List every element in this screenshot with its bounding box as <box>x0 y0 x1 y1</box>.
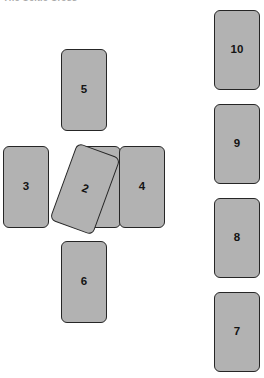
card-number-label: 7 <box>215 326 259 338</box>
card-number-label: 6 <box>62 276 106 288</box>
card-number-label: 10 <box>215 44 259 56</box>
card-position-7[interactable]: 7 <box>214 292 260 372</box>
card-number-label: 3 <box>4 181 48 193</box>
card-position-3[interactable]: 3 <box>3 146 49 228</box>
card-position-6[interactable]: 6 <box>61 241 107 323</box>
card-position-4[interactable]: 4 <box>119 146 165 228</box>
celtic-cross-spread-diagram: The Celtic Cross 1 2 3 4 5 6 7 8 9 10 <box>0 0 264 378</box>
card-position-9[interactable]: 9 <box>214 104 260 184</box>
card-position-10[interactable]: 10 <box>214 10 260 90</box>
card-number-label: 4 <box>120 181 164 193</box>
card-number-label: 2 <box>62 176 107 202</box>
card-number-label: 9 <box>215 138 259 150</box>
card-number-label: 8 <box>215 232 259 244</box>
card-position-5[interactable]: 5 <box>61 49 107 131</box>
diagram-caption: The Celtic Cross <box>3 0 77 3</box>
card-number-label: 5 <box>62 84 106 96</box>
card-position-8[interactable]: 8 <box>214 198 260 278</box>
